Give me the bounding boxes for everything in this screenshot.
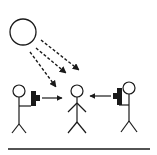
- left-person-figure: [12, 85, 31, 133]
- sun-rays: [30, 40, 79, 87]
- center-person-head: [71, 85, 83, 97]
- left-person-head: [13, 85, 25, 97]
- right-person-head: [123, 82, 135, 94]
- sun-icon: [10, 19, 36, 45]
- diagram-canvas: [0, 0, 157, 155]
- sun-ray-2: [36, 48, 66, 73]
- center-person-figure: [68, 85, 86, 133]
- right-flash-icon: [113, 88, 122, 105]
- sun-ray-1: [41, 40, 79, 70]
- sun-ray-3: [30, 52, 56, 87]
- left-flash-icon: [31, 91, 40, 106]
